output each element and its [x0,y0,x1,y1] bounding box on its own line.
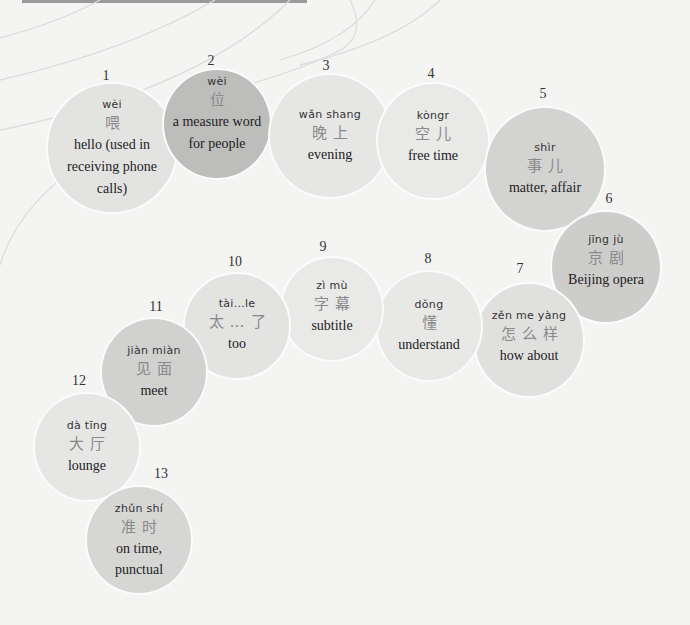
item-number: 4 [428,66,435,82]
vocab-bubble-1: wèi 喂 hello (used in receiving phone cal… [46,82,178,214]
meaning: understand [392,334,465,356]
pinyin: tài…le [219,296,256,311]
hanzi: 空儿 [415,123,457,145]
pinyin: zhǔn shí [115,501,163,516]
item-number: 9 [320,239,327,255]
meaning: Beijing opera [562,269,650,291]
hanzi: 准时 [121,516,163,538]
item-number: 12 [72,373,86,389]
item-number: 11 [149,299,162,315]
meaning: on time, punctual [87,538,191,580]
pinyin: wèi [207,74,227,89]
hanzi: 晚上 [312,122,354,144]
hanzi: 喂 [105,112,126,134]
meaning: how about [494,345,565,367]
item-number: 2 [208,53,215,69]
hanzi: 懂 [422,312,443,334]
hanzi: 大厅 [69,433,111,455]
meaning: subtitle [305,315,358,337]
vocab-bubble-3: wǎn shang 晚上 evening [268,73,392,199]
hanzi: 太…了 [209,311,272,333]
meaning: lounge [62,455,112,477]
pinyin: dǒng [415,297,444,312]
item-number: 8 [425,251,432,267]
item-number: 10 [228,254,242,270]
pinyin: dà tīng [67,418,108,433]
pinyin: jiàn miàn [127,343,181,358]
meaning: evening [302,144,358,166]
vocab-bubble-7: zěn me yàng 怎么样 how about [473,282,585,398]
item-number: 5 [540,86,547,102]
item-number: 7 [517,261,524,277]
item-number: 13 [154,466,168,482]
hanzi: 京剧 [588,247,630,269]
hanzi: 怎么样 [501,323,564,345]
meaning: a measure word for people [164,111,270,155]
vocab-bubble-8: dǒng 懂 understand [375,270,483,382]
vocab-bubble-12: dà tīng 大厅 lounge [33,392,141,502]
vocab-bubble-13: zhǔn shí 准时 on time, punctual [85,485,193,595]
pinyin: wèi [102,97,122,112]
pinyin: zěn me yàng [492,308,567,323]
meaning: too [222,333,252,355]
meaning: meet [134,380,173,402]
hanzi: 字幕 [314,293,356,315]
meaning: hello (used in receiving phone calls) [48,134,176,200]
hanzi: 见面 [136,358,178,380]
vocab-bubble-9: zì mù 字幕 subtitle [280,256,384,362]
item-number: 6 [606,191,613,207]
meaning: matter, affair [503,177,587,199]
pinyin: kòngr [417,108,450,123]
pinyin: zì mù [316,278,348,293]
vocab-bubble-4: kòngr 空儿 free time [376,82,490,200]
item-number: 3 [323,58,330,74]
pinyin: shìr [534,140,555,155]
vocab-bubble-2: wèi 位 a measure word for people [162,68,272,180]
meaning: free time [402,145,464,167]
pinyin: wǎn shang [299,107,361,122]
hanzi: 位 [210,89,231,111]
pinyin: jīng jù [588,232,624,247]
hanzi: 事儿 [527,155,569,177]
